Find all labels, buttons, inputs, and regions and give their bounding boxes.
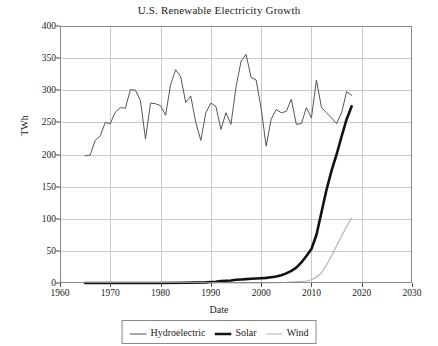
y-tick-label: 250 [22,117,56,127]
x-tick-mark [161,283,162,287]
legend-swatch-solar [215,323,232,341]
y-tick-label: 50 [22,246,56,256]
y-tick-label: 350 [22,53,56,63]
chart-figure: U.S. Renewable Electricity Growth TWh 05… [0,0,438,346]
x-tick-label: 2010 [302,288,321,298]
x-axis-label: Date [0,304,438,315]
plot-area [60,26,412,283]
x-tick-mark [261,283,262,287]
x-tick-label: 1970 [101,288,120,298]
legend-swatch-wind [266,323,283,341]
y-tick-label: 200 [22,150,56,160]
x-tick-label: 2030 [403,288,422,298]
legend-swatch-hydroelectric [130,323,147,341]
x-tick-label: 1980 [151,288,170,298]
chart-title: U.S. Renewable Electricity Growth [0,4,438,16]
y-tick-label: 400 [22,21,56,31]
chart-legend: HydroelectricSolarWind [122,320,317,344]
x-tick-label: 1960 [51,288,70,298]
x-tick-mark [311,283,312,287]
y-tick-label: 100 [22,214,56,224]
x-tick-mark [110,283,111,287]
y-axis-ticks: 050100150200250300350400 [18,26,56,283]
legend-item-solar[interactable]: Solar [215,323,257,341]
x-tick-mark [60,283,61,287]
x-tick-label: 2000 [252,288,271,298]
legend-item-hydroelectric[interactable]: Hydroelectric [130,323,206,341]
x-tick-label: 1990 [201,288,220,298]
legend-item-wind[interactable]: Wind [266,323,309,341]
legend-label: Wind [287,327,309,338]
y-tick-label: 150 [22,182,56,192]
x-tick-mark [211,283,212,287]
x-tick-mark [412,283,413,287]
legend-label: Solar [236,327,257,338]
x-tick-label: 2020 [352,288,371,298]
plot-frame [60,26,412,283]
y-tick-label: 300 [22,85,56,95]
x-tick-mark [362,283,363,287]
y-tick-label: 0 [22,278,56,288]
legend-label: Hydroelectric [151,327,206,338]
